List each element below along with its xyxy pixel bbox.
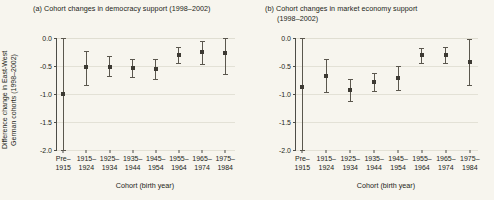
x-axis-tick — [398, 150, 399, 153]
x-axis-tick-label-line: 1965– — [192, 155, 211, 164]
x-axis-tick-label-line: 1925– — [340, 155, 359, 164]
x-axis-tick-label: Pre–1915 — [295, 155, 311, 172]
panel-b-title: (b) Cohort changes in market economy sup… — [265, 4, 475, 23]
x-axis-tick-label-line: 1935– — [123, 155, 142, 164]
x-axis-tick-label: 1975–1984 — [215, 155, 234, 172]
data-marker[interactable] — [468, 60, 472, 64]
plot-area-b: 0.0-0.5-1.0-1.5-2.0Pre–19151915–19241925… — [295, 38, 478, 151]
x-axis-tick — [155, 150, 156, 153]
data-marker[interactable] — [324, 74, 328, 78]
error-bar-cap-upper — [348, 79, 353, 80]
error-bar-cap-upper — [300, 38, 305, 39]
x-axis-tick-label-line: 1944 — [123, 164, 142, 173]
x-axis-tick-label-line: 1924 — [77, 164, 96, 173]
error-bar-cap-upper — [107, 56, 112, 57]
y-axis-tick-label: -1.5 — [40, 119, 52, 126]
x-axis-tick — [109, 150, 110, 153]
error-bar-cap-lower — [419, 63, 424, 64]
error-bar-cap-lower — [348, 101, 353, 102]
gridline — [296, 150, 478, 151]
error-bar-cap-upper — [176, 47, 181, 48]
data-marker[interactable] — [348, 88, 352, 92]
x-axis-tick — [202, 150, 203, 153]
error-bar-cap-upper — [324, 59, 329, 60]
error-bar-cap-lower — [372, 91, 377, 92]
x-axis-tick-label-line: 1915– — [317, 155, 336, 164]
panel-b: (b) Cohort changes in market economy sup… — [247, 0, 494, 200]
x-axis-tick-label: 1975–1984 — [460, 155, 479, 172]
x-axis-tick — [225, 150, 226, 153]
error-bar-cap-upper — [223, 38, 228, 39]
error-bar-cap-upper — [443, 47, 448, 48]
data-marker[interactable] — [444, 53, 448, 57]
data-marker[interactable] — [200, 50, 204, 54]
panel-b-title-line1: (b) Cohort changes in market economy sup… — [265, 4, 417, 13]
y-axis-tick — [54, 150, 57, 151]
x-axis-tick-label-line: 1954 — [388, 164, 407, 173]
y-axis-title-line1: Difference change in East-West — [0, 51, 9, 149]
data-marker[interactable] — [177, 53, 181, 57]
x-axis-tick-label: 1965–1974 — [436, 155, 455, 172]
y-axis-tick-label: 0.0 — [42, 35, 52, 42]
error-bar-cap-lower — [300, 150, 305, 151]
x-axis-tick-label: 1965–1974 — [192, 155, 211, 172]
x-axis-title-a: Cohort (birth year) — [56, 181, 234, 190]
x-axis-title-b: Cohort (birth year) — [295, 181, 477, 190]
x-axis-tick-label-line: 1945– — [388, 155, 407, 164]
gridline — [57, 150, 235, 151]
x-axis-tick-label: 1915–1924 — [77, 155, 96, 172]
x-axis-tick — [374, 150, 375, 153]
x-axis-tick-label-line: 1924 — [317, 164, 336, 173]
y-axis-tick — [293, 38, 296, 39]
y-axis-tick — [54, 122, 57, 123]
data-marker[interactable] — [223, 51, 227, 55]
data-marker[interactable] — [420, 53, 424, 57]
error-bar-cap-lower — [324, 92, 329, 93]
data-marker[interactable] — [131, 66, 135, 70]
x-axis-tick-label-line: 1975– — [215, 155, 234, 164]
error-bar-cap-lower — [176, 63, 181, 64]
error-bar-cap-upper — [396, 66, 401, 67]
y-axis-tick-label: -1.0 — [279, 91, 291, 98]
x-axis-tick-label-line: Pre– — [55, 155, 71, 164]
gridline — [296, 66, 478, 67]
data-marker[interactable] — [300, 85, 304, 89]
y-axis-tick-label: -2.0 — [279, 147, 291, 154]
error-bar-cap-lower — [107, 76, 112, 77]
data-marker[interactable] — [84, 65, 88, 69]
x-axis-tick-label-line: 1955– — [169, 155, 188, 164]
data-marker[interactable] — [61, 92, 65, 96]
x-axis-tick-label-line: 1964 — [412, 164, 431, 173]
error-bar-cap-upper — [61, 38, 66, 39]
x-axis-tick-label: 1945–1954 — [388, 155, 407, 172]
y-axis-tick — [54, 38, 57, 39]
y-axis-tick-label: -1.5 — [279, 119, 291, 126]
y-axis-tick-label: -0.5 — [40, 63, 52, 70]
x-axis-tick-label-line: 1974 — [436, 164, 455, 173]
x-axis-tick — [445, 150, 446, 153]
error-bar-cap-upper — [130, 59, 135, 60]
error-bar-cap-upper — [372, 73, 377, 74]
x-axis-tick — [350, 150, 351, 153]
gridline — [57, 94, 235, 95]
x-axis-tick-label: 1955–1964 — [412, 155, 431, 172]
x-axis-tick — [326, 150, 327, 153]
x-axis-tick-label-line: 1964 — [169, 164, 188, 173]
data-marker[interactable] — [154, 67, 158, 71]
error-bar-cap-upper — [153, 59, 158, 60]
gridline — [57, 38, 235, 39]
x-axis-tick — [86, 150, 87, 153]
x-axis-tick — [178, 150, 179, 153]
data-marker[interactable] — [372, 80, 376, 84]
x-axis-tick — [421, 150, 422, 153]
error-bar-cap-lower — [200, 64, 205, 65]
x-axis-tick-label-line: 1934 — [340, 164, 359, 173]
x-axis-tick-label-line: 1965– — [436, 155, 455, 164]
data-marker[interactable] — [396, 76, 400, 80]
y-axis-tick-label: -1.0 — [40, 91, 52, 98]
x-axis-tick-label-line: 1915– — [77, 155, 96, 164]
x-axis-tick-label-line: 1984 — [460, 164, 479, 173]
data-marker[interactable] — [108, 65, 112, 69]
y-axis-tick — [54, 66, 57, 67]
x-axis-tick-label: 1935–1944 — [123, 155, 142, 172]
